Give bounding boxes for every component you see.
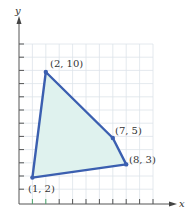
vertex-point-1-2 <box>30 175 34 179</box>
vertex-label-8-3: (8, 3) <box>129 154 156 165</box>
vertex-label-2-10: (2, 10) <box>50 58 83 69</box>
quadrilateral-region <box>32 72 126 178</box>
vertex-label-1-2: (1, 2) <box>28 183 55 194</box>
x-axis-label: x <box>179 198 185 209</box>
vertex-label-7-5: (7, 5) <box>115 125 142 136</box>
vertex-point-8-3 <box>124 162 128 166</box>
x-axis-arrow-icon <box>169 202 177 207</box>
vertex-point-2-10 <box>44 70 48 74</box>
y-ticks <box>19 44 24 189</box>
coordinate-plane: (2, 10) (7, 5) (8, 3) (1, 2) y x <box>0 0 189 215</box>
vertex-point-7-5 <box>111 136 115 140</box>
y-axis-arrow-icon <box>17 16 22 24</box>
y-axis-label: y <box>14 5 21 16</box>
x-ticks <box>32 199 153 204</box>
